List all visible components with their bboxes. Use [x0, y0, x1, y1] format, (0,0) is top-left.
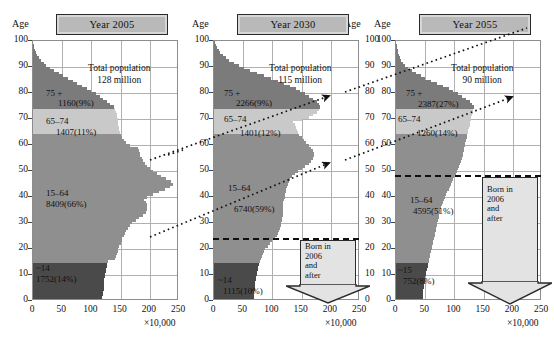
x-axis-tick-label: 100 [440, 304, 466, 314]
y-axis-tick-label: 0 [6, 294, 28, 304]
x-axis-unit-label: ×10,000 [507, 318, 538, 328]
y-axis-tick-label: 80 [369, 86, 391, 96]
y-axis-tick-mark [28, 274, 32, 275]
y-axis-tick-mark [391, 144, 395, 145]
panel-2055: Age Year 2055 Total population 90 millio… [365, 0, 547, 342]
y-axis-tick-label: 50 [187, 164, 209, 174]
born-after-text-2055: Born in 2006 and after [487, 185, 539, 223]
age-axis-label-left-2030: Age [192, 18, 209, 29]
x-axis-tick-label: 0 [200, 304, 226, 314]
y-axis-tick-label: 20 [369, 242, 391, 252]
value-0-14-2055: 752(8%) [403, 276, 435, 287]
y-axis-tick-mark [28, 248, 32, 249]
y-axis-tick-label: 60 [187, 138, 209, 148]
y-axis-tick-label: 30 [187, 216, 209, 226]
x-axis-tick-label: 150 [107, 304, 133, 314]
y-axis-tick-label: 30 [369, 216, 391, 226]
x-axis-tick-label: 100 [258, 304, 284, 314]
total-population-2030: Total population 115 million [269, 62, 331, 86]
value-65-74-2030: 1401(12%) [240, 128, 281, 139]
y-axis-tick-label: 90 [6, 60, 28, 70]
panel-title-2030: Year 2030 [237, 14, 349, 35]
born-after-arrow-2055: Born in 2006 and after [468, 177, 552, 305]
y-axis-tick-label: 100 [187, 34, 209, 44]
x-axis-tick-label: 250 [528, 304, 554, 314]
age-axis-label-left: Age [12, 18, 29, 29]
y-axis-tick-label: 70 [369, 112, 391, 122]
y-axis-tick-mark [209, 222, 213, 223]
y-axis-tick-mark [391, 222, 395, 223]
y-axis-tick-label: 70 [187, 112, 209, 122]
panel-2005: Age Year 2005 Total population 128 milli… [0, 0, 183, 342]
x-axis-tick-label: 150 [288, 304, 314, 314]
panel-title-2005: Year 2005 [56, 14, 168, 35]
total-population-2055: Total population 90 million [451, 62, 513, 86]
value-15-64-2005: 8409(66%) [46, 199, 87, 210]
age-bar [396, 44, 397, 47]
x-axis-tick-label: 0 [19, 304, 45, 314]
y-axis-tick-mark [209, 118, 213, 119]
y-axis-tick-mark [209, 66, 213, 67]
y-axis-tick-mark [209, 300, 213, 301]
label-0-14-2030: ~14 [218, 275, 232, 286]
x-axis-tick-label: 200 [499, 304, 525, 314]
y-axis-tick-mark [28, 40, 32, 41]
x-axis-unit-label: ×10,000 [325, 318, 356, 328]
y-axis-tick-mark [28, 144, 32, 145]
y-axis-tick-label: 10 [369, 268, 391, 278]
label-15-64-2005: 15–64 [46, 188, 69, 199]
y-axis-tick-mark [391, 300, 395, 301]
x-axis-tick-label: 50 [48, 304, 74, 314]
value-0-14-2005: 1752(14%) [36, 274, 77, 285]
x-axis-tick-label: 50 [411, 304, 437, 314]
y-axis-tick-label: 10 [187, 268, 209, 278]
value-65-74-2055: 1260(14%) [417, 128, 458, 139]
panel-2030: Age Age Year 2030 Total population 115 m… [183, 0, 365, 342]
x-axis-tick-label: 50 [229, 304, 255, 314]
y-axis-tick-mark [391, 92, 395, 93]
y-axis-tick-label: 40 [187, 190, 209, 200]
y-axis-tick-label: 0 [187, 294, 209, 304]
x-axis-tick-label: 100 [77, 304, 103, 314]
y-axis-tick-label: 100 [369, 34, 391, 44]
y-axis-tick-label: 80 [6, 86, 28, 96]
y-axis-tick-label: 10 [6, 268, 28, 278]
label-15-64-2030: 15–64 [228, 183, 251, 194]
y-axis-tick-label: 50 [369, 164, 391, 174]
y-axis-tick-label: 40 [6, 190, 28, 200]
born-after-text-2030: Born in 2006 and after [305, 242, 357, 280]
y-axis-tick-label: 40 [369, 190, 391, 200]
y-axis-tick-mark [391, 248, 395, 249]
y-axis-tick-mark [391, 66, 395, 67]
y-axis-tick-label: 20 [6, 242, 28, 252]
x-axis-tick-label: 200 [136, 304, 162, 314]
value-0-14-2030: 1115(10%) [223, 286, 263, 297]
y-axis-tick-mark [28, 222, 32, 223]
y-axis-tick-mark [391, 40, 395, 41]
y-axis-tick-label: 90 [369, 60, 391, 70]
value-75plus-2055: 2387(27%) [418, 99, 459, 110]
y-axis-tick-label: 0 [369, 294, 391, 304]
y-axis-tick-mark [391, 118, 395, 119]
y-axis-tick-label: 50 [6, 164, 28, 174]
y-axis-tick-mark [391, 170, 395, 171]
y-axis-tick-label: 100 [6, 34, 28, 44]
label-15-64-2055: 15–64 [410, 195, 433, 206]
y-axis-tick-mark [28, 92, 32, 93]
y-axis-tick-mark [209, 40, 213, 41]
x-axis-tick-label: 0 [382, 304, 408, 314]
y-axis-tick-label: 30 [6, 216, 28, 226]
label-0-14-2055: ~15 [398, 265, 412, 276]
y-axis-tick-mark [209, 92, 213, 93]
y-axis-tick-mark [209, 144, 213, 145]
y-axis-tick-label: 60 [6, 138, 28, 148]
label-75plus-2055: 75 + [406, 88, 422, 99]
total-population-2005: Total population 128 million [88, 62, 150, 86]
y-axis-tick-mark [209, 274, 213, 275]
x-axis-tick-label: 200 [317, 304, 343, 314]
value-15-64-2055: 4595(51%) [413, 206, 454, 217]
age-axis-label-left-2055: Age [374, 18, 391, 29]
y-axis-tick-mark [28, 196, 32, 197]
y-axis-tick-label: 80 [187, 86, 209, 96]
